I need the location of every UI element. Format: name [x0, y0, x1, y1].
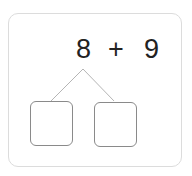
number-bond-lines — [0, 0, 192, 176]
answer-box-left[interactable] — [30, 101, 73, 146]
answer-box-right[interactable] — [94, 102, 137, 147]
